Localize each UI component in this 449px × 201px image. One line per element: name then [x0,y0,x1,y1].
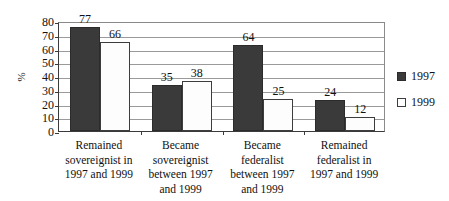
legend-label: 1999 [411,96,435,108]
category-label-line: 1997 and 1999 [54,167,144,182]
category-label-line: Remained [54,138,144,153]
bar-value-label: 64 [233,31,263,43]
y-tick-label: 80 [28,16,54,28]
x-axis-tick [304,131,305,135]
bar-1997-cat3 [315,100,345,131]
x-axis-tick [141,131,142,135]
bar-chart: % 80706050403020100 7735642466382512 Rem… [0,0,449,201]
category-label-line: federalist in [299,153,389,168]
category-label-line: sovereignist [136,153,226,168]
bar-1999-cat1 [182,81,212,131]
y-tick-label: 10 [28,112,54,124]
category-label-line: sovereignist in [54,153,144,168]
y-tick-label: 50 [28,57,54,69]
y-tick-label: 20 [28,99,54,111]
y-axis-tick [55,133,59,134]
category-label-1: Becamesovereignistbetween 1997and 1999 [136,138,226,196]
legend-swatch-icon [397,98,406,107]
category-label-3: Remainedfederalist in1997 and 1999 [299,138,389,182]
y-tick-label: 70 [28,30,54,42]
category-label-line: Remained [299,138,389,153]
y-axis-tick [55,37,59,38]
bar-value-label: 38 [182,67,212,79]
legend-label: 1997 [411,70,435,82]
category-label-line: federalist [218,153,308,168]
bar-1997-cat2 [233,45,263,131]
bar-value-label: 66 [100,28,130,40]
category-label-line: Became [218,138,308,153]
y-axis-tick [55,106,59,107]
legend-item-1997[interactable]: 1997 [397,70,435,82]
legend-swatch-icon [397,72,406,81]
y-tick-label: 40 [28,71,54,83]
bar-value-label: 24 [315,86,345,98]
bar-1997-cat1 [152,85,182,131]
y-axis-tick-labels: 80706050403020100 [28,16,54,140]
category-label-line: between 1997 [218,167,308,182]
category-label-0: Remainedsovereignist in1997 and 1999 [54,138,144,182]
bar-1999-cat2 [263,99,293,131]
bar-value-label: 12 [345,103,375,115]
bar-value-label: 77 [70,13,100,25]
legend-item-1999[interactable]: 1999 [397,96,435,108]
x-axis-tick [223,131,224,135]
y-axis-tick [55,23,59,24]
y-axis-tick [55,64,59,65]
x-axis-category-labels: Remainedsovereignist in1997 and 1999Beca… [58,138,385,200]
y-tick-label: 0 [28,126,54,138]
bar-value-label: 25 [263,85,293,97]
category-label-line: Became [136,138,226,153]
y-axis-tick [55,78,59,79]
category-label-line: and 1999 [136,182,226,197]
y-axis-tick [55,119,59,120]
bar-1999-cat3 [345,117,375,132]
plot-area: 7735642466382512 [58,22,385,132]
y-axis-tick [55,51,59,52]
bar-value-label: 35 [152,71,182,83]
bar-1999-cat0 [100,42,130,131]
y-tick-label: 60 [28,44,54,56]
category-label-line: and 1999 [218,182,308,197]
y-axis-tick [55,92,59,93]
bar-1997-cat0 [70,27,100,131]
category-label-line: 1997 and 1999 [299,167,389,182]
category-label-line: between 1997 [136,167,226,182]
y-tick-label: 30 [28,85,54,97]
category-label-2: Becamefederalistbetween 1997and 1999 [218,138,308,196]
